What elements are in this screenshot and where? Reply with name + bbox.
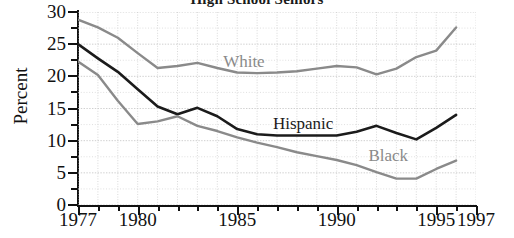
y-tick-label: 15 <box>0 99 66 118</box>
x-tick-minor <box>377 206 379 211</box>
x-tick-minor <box>396 206 398 211</box>
y-tick-label: 25 <box>0 34 66 53</box>
x-tick-label: 1980 <box>112 210 164 230</box>
series-label-white: White <box>223 52 265 72</box>
y-tick-label: 10 <box>0 131 66 150</box>
series-label-hispanic: Hispanic <box>273 114 333 134</box>
x-tick-label: 1990 <box>311 210 363 230</box>
chart-title: High School Seniors <box>0 0 514 8</box>
x-tick-minor <box>297 206 299 211</box>
chart-root: High School Seniors Percent 051015202530… <box>0 0 514 238</box>
y-tick-label: 30 <box>0 2 66 21</box>
x-tick-label: 1997 <box>450 210 502 230</box>
grid-lines <box>78 12 476 205</box>
y-tick-label: 5 <box>0 163 66 182</box>
plot-area <box>78 12 476 205</box>
x-tick-label: 1977 <box>52 210 104 230</box>
x-tick-minor <box>197 206 199 211</box>
x-tick-minor <box>178 206 180 211</box>
x-tick-minor <box>277 206 279 211</box>
x-tick-label: 1985 <box>211 210 263 230</box>
series-label-black: Black <box>368 146 408 166</box>
series-canvas <box>78 12 476 205</box>
y-tick-label: 20 <box>0 66 66 85</box>
